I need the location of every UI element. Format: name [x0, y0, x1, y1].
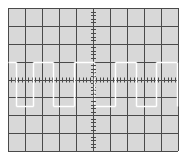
- oscilloscope-display: [0, 0, 184, 159]
